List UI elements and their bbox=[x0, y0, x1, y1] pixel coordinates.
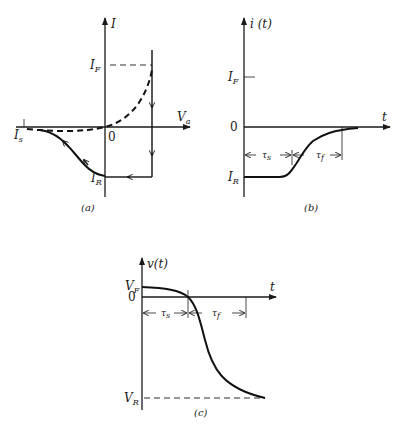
static-iv-curve bbox=[27, 70, 152, 131]
y-axis-label: v(t) bbox=[147, 257, 168, 271]
y-axis-label: i (t) bbox=[250, 17, 272, 31]
fall-time-label: τf bbox=[212, 308, 222, 320]
caption-a: (a) bbox=[81, 202, 95, 213]
forward-current-label: IF bbox=[227, 70, 239, 86]
forward-current-label: IF bbox=[89, 58, 101, 74]
forward-voltage-label: VF bbox=[125, 279, 140, 295]
recovery-curve bbox=[40, 130, 105, 176]
panel-b-current-transient: τs τf i (t) t 0 IF IR (b) bbox=[227, 17, 390, 213]
origin-label: 0 bbox=[230, 120, 238, 134]
origin-label: 0 bbox=[108, 130, 116, 144]
panel-c-voltage-transient: τs τf v(t) t 0 VF VR (c) bbox=[124, 257, 276, 418]
fall-time-label: τf bbox=[316, 150, 326, 162]
recovery-arrow-2 bbox=[63, 141, 68, 146]
panel-a-iv-characteristic: I Va 0 IF IR Is (a) bbox=[13, 17, 191, 213]
caption-c: (c) bbox=[194, 407, 208, 418]
storage-time-label: τs bbox=[262, 150, 271, 162]
x-axis-label: t bbox=[382, 110, 387, 124]
saturation-current-label: Is bbox=[13, 128, 23, 144]
x-axis-label: Va bbox=[177, 110, 191, 126]
y-axis-label: I bbox=[110, 17, 116, 31]
storage-time-label: τs bbox=[161, 308, 170, 320]
reverse-voltage-label: VR bbox=[124, 391, 139, 407]
diode-switching-figure: I Va 0 IF IR Is (a) τs τf i (t) t 0 IF I… bbox=[0, 0, 405, 427]
voltage-transient-curve bbox=[142, 287, 265, 398]
x-axis-label: t bbox=[270, 280, 275, 294]
caption-b: (b) bbox=[304, 202, 318, 213]
reverse-current-label: IR bbox=[227, 170, 239, 186]
